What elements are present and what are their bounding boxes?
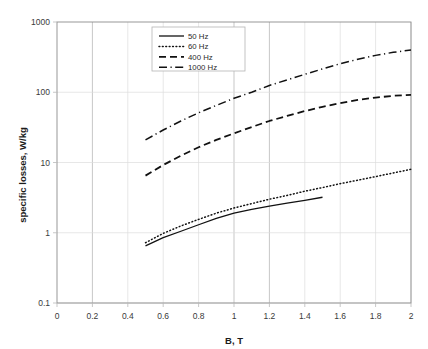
legend-label-400-hz: 400 Hz xyxy=(188,53,213,62)
y-tick-label: 0.1 xyxy=(38,298,50,308)
y-tick-label: 1000 xyxy=(31,17,50,27)
x-tick-label: 1.6 xyxy=(334,311,346,321)
x-tick-label: 0.6 xyxy=(157,311,169,321)
x-tick-label: 1.4 xyxy=(299,311,311,321)
legend-label-1000-hz: 1000 Hz xyxy=(188,63,217,72)
x-tick-label: 1.8 xyxy=(370,311,382,321)
x-tick-label: 0.4 xyxy=(122,311,134,321)
x-tick-label: 0.8 xyxy=(193,311,205,321)
x-tick-label: 1.2 xyxy=(263,311,275,321)
y-axis-title: specific losses, W/kg xyxy=(17,127,28,223)
x-tick-label: 1 xyxy=(232,311,237,321)
x-tick-label: 0 xyxy=(55,311,60,321)
legend-label-50-hz: 50 Hz xyxy=(188,32,208,41)
y-tick-label: 100 xyxy=(36,87,50,97)
chart-canvas: 10001001010.1 00.20.40.60.811.21.41.61.8… xyxy=(0,0,428,349)
specific-losses-chart: 10001001010.1 00.20.40.60.811.21.41.61.8… xyxy=(0,0,428,349)
x-axis-title: B, T xyxy=(225,335,243,346)
y-tick-label: 1 xyxy=(45,228,50,238)
chart-legend: 50 Hz60 Hz400 Hz1000 Hz xyxy=(152,27,245,72)
x-tick-label: 0.2 xyxy=(86,311,98,321)
legend-label-60-hz: 60 Hz xyxy=(188,42,208,51)
x-tick-label: 2 xyxy=(409,311,414,321)
y-tick-label: 10 xyxy=(41,158,51,168)
